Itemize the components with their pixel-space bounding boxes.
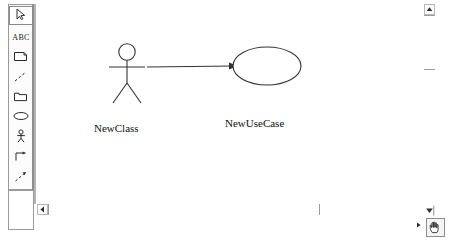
vertical-scrollbar-thumb[interactable]: [424, 15, 435, 70]
tool-package[interactable]: [9, 87, 33, 105]
diagram-canvas[interactable]: NewClass NewUseCase: [37, 4, 415, 202]
tool-dependency-arrow[interactable]: [9, 167, 33, 185]
scroll-up-arrow-icon[interactable]: [424, 4, 435, 15]
scroll-right-arrow-icon[interactable]: [414, 219, 424, 231]
horizontal-scrollbar-track[interactable]: [48, 204, 415, 215]
horizontal-scrollbar[interactable]: [37, 204, 415, 215]
actor-label[interactable]: NewClass: [94, 122, 139, 134]
horizontal-scrollbar-thumb[interactable]: [48, 204, 320, 215]
actor-shape: [109, 44, 145, 103]
vertical-scrollbar[interactable]: [424, 4, 435, 202]
tool-unidirectional-association[interactable]: [9, 147, 33, 165]
tool-note-anchor[interactable]: [9, 67, 33, 85]
application-window: ABC: [0, 0, 450, 242]
tool-abc-text[interactable]: ABC: [9, 28, 33, 46]
scroll-left-arrow-icon[interactable]: [37, 204, 48, 215]
hand-icon[interactable]: [426, 218, 445, 237]
toolbar-lower-panel: [8, 190, 34, 230]
tool-selector-arrow[interactable]: [9, 6, 33, 25]
tool-use-case-ellipse[interactable]: [9, 107, 33, 125]
association-arrow: [147, 62, 238, 69]
use-case-label[interactable]: NewUseCase: [225, 117, 284, 129]
tool-actor-stick-figure[interactable]: [9, 127, 33, 145]
tool-note[interactable]: [9, 47, 33, 65]
tool-abc-label: ABC: [12, 33, 29, 42]
vertical-scrollbar-track[interactable]: [424, 15, 435, 75]
diagram-shapes: [37, 4, 415, 202]
toolbar-edge-divider: [34, 4, 36, 204]
drawing-toolbar: ABC: [8, 4, 34, 190]
scroll-down-arrow-icon[interactable]: [424, 205, 435, 216]
use-case-shape: [233, 47, 301, 85]
